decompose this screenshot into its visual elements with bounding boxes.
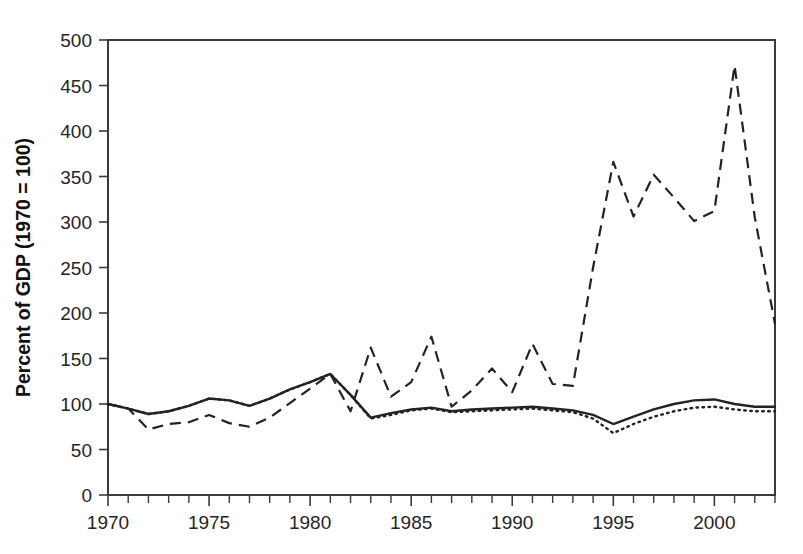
y-tick-label: 150 — [60, 349, 92, 370]
y-tick-label: 200 — [60, 303, 92, 324]
chart-container: 050100150200250300350400450500 197019751… — [0, 0, 803, 554]
x-tick-label: 1985 — [390, 512, 432, 533]
series-line-dashed — [108, 65, 775, 429]
chart-axes — [108, 40, 775, 495]
y-tick-label: 50 — [71, 440, 92, 461]
axis-frame — [108, 40, 775, 495]
x-axis-ticks: 1970197519801985199019952000 — [87, 495, 775, 533]
x-tick-label: 1990 — [491, 512, 533, 533]
y-tick-label: 450 — [60, 76, 92, 97]
y-tick-label: 500 — [60, 30, 92, 51]
y-tick-label: 300 — [60, 212, 92, 233]
chart-series-group — [108, 65, 775, 433]
y-tick-label: 100 — [60, 394, 92, 415]
x-tick-label: 1995 — [592, 512, 634, 533]
x-tick-label: 1980 — [289, 512, 331, 533]
x-tick-label: 1970 — [87, 512, 129, 533]
y-tick-label: 0 — [81, 485, 92, 506]
y-axis-ticks: 050100150200250300350400450500 — [60, 30, 108, 506]
line-chart: 050100150200250300350400450500 197019751… — [0, 0, 803, 554]
x-tick-label: 1975 — [188, 512, 230, 533]
y-tick-label: 400 — [60, 121, 92, 142]
y-axis-label: Percent of GDP (1970 = 100) — [12, 138, 34, 397]
y-tick-label: 250 — [60, 258, 92, 279]
x-tick-label: 2000 — [693, 512, 735, 533]
y-tick-label: 350 — [60, 167, 92, 188]
